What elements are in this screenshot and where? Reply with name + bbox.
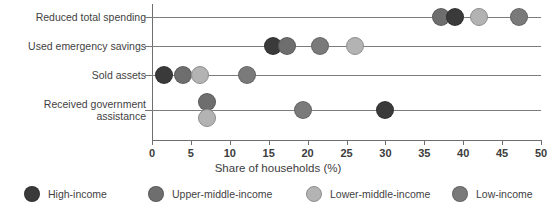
y-axis-line (152, 4, 153, 140)
x-tick-label-45: 45 (482, 147, 522, 159)
x-tick-label-5: 5 (171, 147, 211, 159)
legend-swatch-icon (24, 186, 40, 202)
x-tick-label-15: 15 (249, 147, 289, 159)
data-point[interactable] (198, 109, 216, 127)
data-point[interactable] (278, 37, 296, 55)
y-label-1: Used emergency savings (0, 40, 146, 52)
legend-item-upper-middle-income[interactable]: Upper-middle-income (148, 182, 272, 206)
x-tick-label-50: 50 (521, 147, 556, 159)
x-tick-20 (308, 140, 309, 145)
x-tick-label-25: 25 (327, 147, 367, 159)
data-point[interactable] (174, 66, 192, 84)
plot-area: Reduced total spending Used emergency sa… (0, 0, 556, 170)
legend-label: Lower-middle-income (330, 188, 430, 200)
data-point[interactable] (510, 8, 528, 26)
x-tick-35 (424, 140, 425, 145)
legend-label: Upper-middle-income (172, 188, 272, 200)
y-axis-category-labels: Reduced total spending Used emergency sa… (0, 0, 146, 130)
data-point[interactable] (191, 66, 209, 84)
x-tick-45 (502, 140, 503, 145)
x-tick-label-20: 20 (288, 147, 328, 159)
data-point[interactable] (311, 37, 329, 55)
legend-label: High-income (48, 188, 107, 200)
data-point[interactable] (446, 8, 464, 26)
y-tick-0 (145, 17, 152, 18)
x-axis-title: Share of households (%) (0, 162, 556, 174)
legend-swatch-icon (452, 186, 468, 202)
legend-item-low-income[interactable]: Low-income (452, 182, 533, 206)
x-tick-label-10: 10 (210, 147, 250, 159)
x-tick-label-35: 35 (404, 147, 444, 159)
x-tick-label-30: 30 (365, 147, 405, 159)
data-point[interactable] (294, 101, 312, 119)
y-tick-2 (145, 75, 152, 76)
x-tick-0 (152, 140, 153, 145)
dot-plot-chart: Reduced total spending Used emergency sa… (0, 0, 556, 214)
y-label-0: Reduced total spending (0, 11, 146, 23)
legend-item-lower-middle-income[interactable]: Lower-middle-income (306, 182, 430, 206)
y-tick-3 (145, 110, 152, 111)
legend-item-high-income[interactable]: High-income (24, 182, 107, 206)
y-label-3: Received government assistance (0, 98, 146, 122)
x-tick-15 (269, 140, 270, 145)
x-tick-30 (385, 140, 386, 145)
y-label-2: Sold assets (0, 69, 146, 81)
row-line-2 (152, 75, 541, 76)
legend-swatch-icon (148, 186, 164, 202)
x-tick-label-40: 40 (443, 147, 483, 159)
legend-swatch-icon (306, 186, 322, 202)
data-point[interactable] (346, 37, 364, 55)
data-point[interactable] (376, 101, 394, 119)
x-tick-40 (463, 140, 464, 145)
legend-label: Low-income (476, 188, 533, 200)
x-tick-5 (191, 140, 192, 145)
y-tick-1 (145, 46, 152, 47)
data-point[interactable] (470, 8, 488, 26)
data-point[interactable] (238, 66, 256, 84)
data-point[interactable] (155, 66, 173, 84)
x-tick-50 (541, 140, 542, 145)
x-tick-10 (230, 140, 231, 145)
x-tick-label-0: 0 (132, 147, 172, 159)
chart-legend: High-income Upper-middle-income Lower-mi… (0, 182, 556, 214)
x-tick-25 (347, 140, 348, 145)
